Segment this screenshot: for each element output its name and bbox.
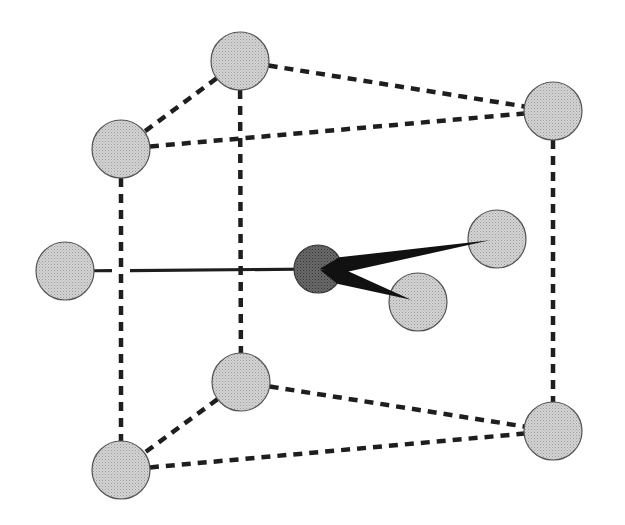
ligand-atom-lower — [389, 273, 447, 331]
dashed-edge-top-back-top-front-left — [144, 78, 216, 132]
molecular-geometry-figure — [0, 0, 625, 525]
ligand-atom-top-front-left — [92, 120, 150, 178]
dashed-edge-top-front-left-top-right — [150, 114, 524, 147]
solid-bond-center-left-seg1 — [130, 269, 318, 271]
atoms — [36, 32, 582, 499]
dashed-edge-bottom-back-bottom-right — [270, 386, 525, 426]
dashed-edge-bottom-front-left-bottom-right — [150, 434, 524, 468]
ligand-atom-top-back — [211, 32, 269, 90]
ligand-atom-bottom-back — [212, 353, 270, 411]
ligand-atom-bottom-front-left — [92, 441, 150, 499]
ligand-atom-bottom-right — [524, 402, 582, 460]
ligand-atom-top-right — [524, 82, 582, 140]
bonds — [94, 269, 318, 271]
ligand-atom-right — [468, 210, 526, 268]
wedge-bond-center-right — [320, 240, 490, 273]
ligand-atom-left — [36, 242, 94, 300]
dashed-edge-top-back-bottom-back — [240, 90, 241, 353]
coordination-diagram — [0, 0, 625, 525]
dashed-edge-bottom-back-bottom-front-left — [144, 399, 217, 453]
dashed-edge-top-back-top-right — [269, 66, 525, 107]
